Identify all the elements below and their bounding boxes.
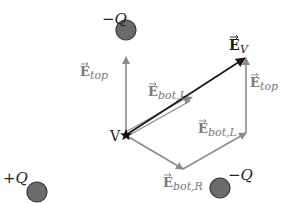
label-e-top-right: E top: [250, 73, 278, 93]
label-e-bot-l-first: E bot,L: [148, 82, 187, 102]
svg-text:E: E: [229, 37, 240, 53]
svg-text:bot,L: bot,L: [208, 126, 237, 139]
svg-text:E: E: [198, 121, 208, 136]
label-e-bot-r: E bot,R: [163, 173, 203, 193]
charge-bottom-left: [27, 182, 47, 202]
label-e-top-left: E top: [80, 62, 108, 82]
svg-text:E: E: [80, 64, 90, 79]
svg-text:E: E: [148, 84, 158, 99]
charge-bottom-right: [210, 178, 230, 198]
svg-text:bot,R: bot,R: [173, 180, 203, 193]
electric-field-diagram: −Q +Q −Q V E top E bot,L E V E top E bot…: [0, 0, 283, 203]
point-v-label: V: [109, 128, 121, 144]
charge-top-label: −Q: [102, 10, 127, 28]
svg-text:V: V: [240, 43, 249, 56]
svg-text:bot,L: bot,L: [158, 89, 187, 102]
svg-text:top: top: [260, 80, 278, 93]
label-e-bot-l-second: E bot,L: [198, 119, 237, 139]
svg-text:E: E: [250, 75, 260, 90]
charge-bottom-right-label: −Q: [228, 166, 253, 184]
svg-text:E: E: [163, 175, 173, 190]
svg-text:top: top: [90, 69, 108, 82]
label-e-v: E V: [229, 35, 249, 56]
charge-bottom-left-label: +Q: [3, 169, 28, 187]
vector-e-bot-r: [127, 136, 183, 169]
vector-e-bot-l-first: [124, 96, 193, 137]
